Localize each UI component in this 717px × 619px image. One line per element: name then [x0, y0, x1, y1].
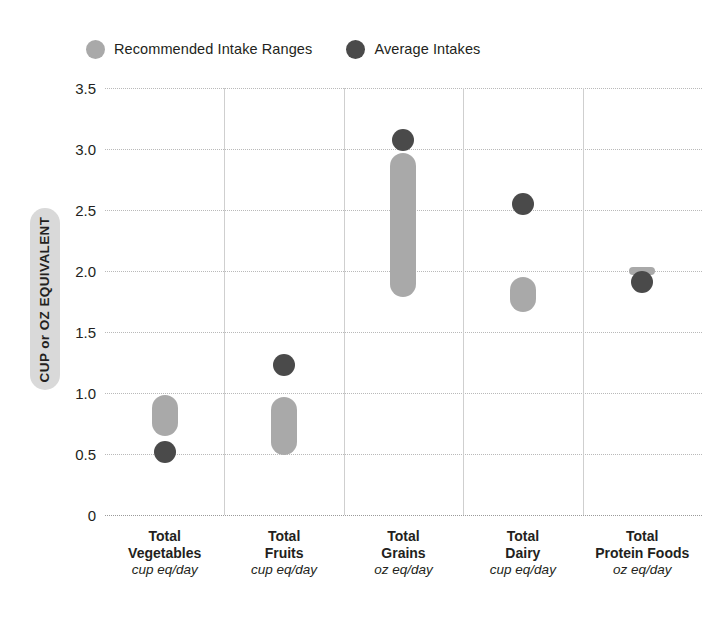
average-intake-dot [392, 129, 414, 151]
legend-swatch-average-icon [346, 40, 365, 59]
y-tick-label: 0 [88, 507, 96, 524]
legend-swatch-range-icon [86, 40, 105, 59]
chart-legend: Recommended Intake Ranges Average Intake… [86, 36, 480, 62]
x-axis-label-line1: Total [105, 528, 224, 545]
x-axis-label-line1: Total [224, 528, 343, 545]
y-tick-label: 0.5 [75, 446, 96, 463]
x-axis-label: TotalDairycup eq/day [463, 528, 582, 578]
recommended-range-bar [271, 397, 297, 456]
data-column [344, 88, 463, 515]
y-tick-label: 3.0 [75, 141, 96, 158]
data-column [463, 88, 582, 515]
y-tick-label: 2.5 [75, 202, 96, 219]
x-axis-label-unit: oz eq/day [583, 562, 702, 578]
x-axis-label-line2: Dairy [463, 545, 582, 562]
x-axis-label-unit: cup eq/day [463, 562, 582, 578]
legend-item-recommended-intake-ranges: Recommended Intake Ranges [86, 40, 312, 59]
axis-baseline [105, 515, 702, 516]
recommended-range-bar [390, 153, 416, 297]
y-tick-label: 2.0 [75, 263, 96, 280]
x-axis-label-line2: Grains [344, 545, 463, 562]
average-intake-dot [512, 193, 534, 215]
x-axis-label-line1: Total [463, 528, 582, 545]
x-axis-label-line1: Total [583, 528, 702, 545]
y-axis-title: CUP or OZ EQUIVALENT [30, 208, 60, 390]
y-tick-label: 1.0 [75, 385, 96, 402]
legend-label-recommended-intake-ranges: Recommended Intake Ranges [114, 41, 312, 57]
data-column [224, 88, 343, 515]
x-axis-label-line2: Vegetables [105, 545, 224, 562]
x-axis-label: TotalProtein Foodsoz eq/day [583, 528, 702, 578]
average-intake-dot [631, 271, 653, 293]
data-column [583, 88, 702, 515]
x-axis-label-line2: Protein Foods [583, 545, 702, 562]
x-axis-labels: TotalVegetablescup eq/dayTotalFruitscup … [105, 528, 702, 578]
y-tick-label: 3.5 [75, 80, 96, 97]
average-intake-dot [273, 354, 295, 376]
legend-label-average-intakes: Average Intakes [374, 41, 480, 57]
recommended-range-bar [152, 395, 178, 435]
x-axis-label-unit: cup eq/day [224, 562, 343, 578]
average-intake-dot [154, 441, 176, 463]
legend-item-average-intakes: Average Intakes [346, 40, 480, 59]
x-axis-label-line2: Fruits [224, 545, 343, 562]
x-axis-label-unit: oz eq/day [344, 562, 463, 578]
data-column [105, 88, 224, 515]
recommended-range-bar [510, 277, 536, 312]
x-axis-label: TotalVegetablescup eq/day [105, 528, 224, 578]
y-tick-label: 1.5 [75, 324, 96, 341]
plot-area: 3.53.02.52.01.51.00.50 [105, 88, 702, 515]
x-axis-label-line1: Total [344, 528, 463, 545]
x-axis-label: TotalFruitscup eq/day [224, 528, 343, 578]
x-axis-label-unit: cup eq/day [105, 562, 224, 578]
x-axis-label: TotalGrainsoz eq/day [344, 528, 463, 578]
y-axis-title-text: CUP or OZ EQUIVALENT [38, 216, 53, 382]
